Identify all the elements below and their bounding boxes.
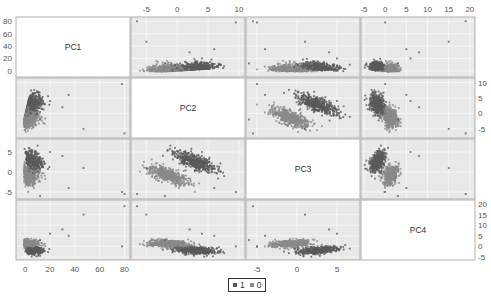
right-axis-tick: -5: [478, 125, 486, 134]
bottom-axis-tick: 20: [46, 265, 55, 274]
panel-PC4-PC1: [16, 200, 130, 260]
legend: 1 0: [228, 278, 266, 292]
left-axis-tick: 0: [8, 168, 13, 177]
left-axis-tick: -5: [5, 188, 13, 197]
left-axis-tick: 20: [3, 54, 12, 63]
right-axis-tick: 10: [478, 221, 487, 230]
panel-PC3-PC4: [361, 139, 475, 199]
top-axis-tick: 10: [423, 5, 432, 14]
panel-PC3-PC1: [16, 139, 130, 199]
panel-PC2-PC3: [246, 78, 360, 138]
diag-label: PC2: [180, 103, 197, 113]
top-axis-tick: 0: [175, 5, 180, 14]
bottom-axis-tick: 40: [70, 265, 79, 274]
right-axis-tick: 5: [478, 232, 483, 241]
panel-PC2-PC1: [16, 78, 130, 138]
right-axis-tick: 0: [478, 109, 483, 118]
top-axis-tick: 5: [404, 5, 409, 14]
bottom-axis-tick: 0: [295, 265, 300, 274]
panel-PC1-PC3: [246, 17, 360, 77]
top-axis-tick: 20: [465, 5, 474, 14]
top-axis-tick: -5: [360, 5, 368, 14]
panel-PC4-PC3: [246, 200, 360, 260]
left-axis-tick: 5: [8, 148, 13, 157]
panel-PC4-PC2: [131, 200, 245, 260]
panel-PC1-PC1: PC1: [16, 17, 130, 77]
bottom-axis-tick: 80: [120, 265, 129, 274]
top-axis-tick: 0: [383, 5, 388, 14]
right-axis-tick: 5: [478, 94, 483, 103]
scatterplot-matrix: PC1PC2PC3PC4-50510-505101520020406080-50…: [0, 0, 491, 297]
diag-label: PC1: [65, 42, 82, 52]
legend-swatch-icon: [233, 283, 237, 287]
left-axis-tick: 0: [8, 67, 13, 76]
top-axis-tick: 10: [234, 5, 243, 14]
diag-label: PC3: [295, 164, 312, 174]
legend-label: 1: [240, 280, 245, 290]
right-axis-tick: 15: [478, 211, 487, 220]
panel-PC3-PC2: [131, 139, 245, 199]
left-axis-tick: 40: [3, 42, 12, 51]
panel-PC4-PC4: PC4: [361, 200, 475, 260]
right-axis-tick: -5: [478, 253, 486, 262]
diag-label: PC4: [410, 225, 427, 235]
panel-PC3-PC3: PC3: [246, 139, 360, 199]
panel-PC2-PC2: PC2: [131, 78, 245, 138]
legend-swatch-icon: [250, 283, 254, 287]
bottom-axis-tick: -5: [253, 265, 261, 274]
bottom-axis-tick: 0: [23, 265, 28, 274]
legend-item-0[interactable]: 0: [250, 280, 262, 290]
legend-item-1[interactable]: 1: [233, 280, 245, 290]
right-axis-tick: 10: [478, 79, 487, 88]
panel-PC2-PC4: [361, 78, 475, 138]
right-axis-tick: 0: [478, 242, 483, 251]
legend-label: 0: [257, 280, 262, 290]
bottom-axis-tick: 60: [95, 265, 104, 274]
panel-PC1-PC2: [131, 17, 245, 77]
right-axis-tick: 20: [478, 200, 487, 209]
left-axis-tick: 80: [3, 17, 12, 26]
top-axis-tick: -5: [143, 5, 151, 14]
left-axis-tick: 60: [3, 30, 12, 39]
panel-PC1-PC4: [361, 17, 475, 77]
top-axis-tick: 15: [444, 5, 453, 14]
top-axis-tick: 5: [206, 5, 211, 14]
bottom-axis-tick: 5: [335, 265, 340, 274]
